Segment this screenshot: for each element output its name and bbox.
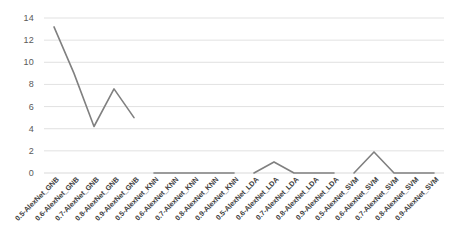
line-chart: 02468101214 0.5-AlexNet_GNB0.6-AlexNet_G… [0, 0, 451, 243]
y-tick-label: 8 [29, 79, 34, 89]
y-tick-label: 2 [29, 146, 34, 156]
plot-area [44, 18, 444, 173]
series-segment-svm [354, 152, 434, 173]
y-tick-label: 0 [29, 168, 34, 178]
x-axis: 0.5-AlexNet_GNB0.6-AlexNet_GNB0.7-AlexNe… [44, 173, 444, 243]
y-tick-label: 14 [24, 13, 34, 23]
y-tick-label: 10 [24, 57, 34, 67]
y-tick-label: 12 [24, 35, 34, 45]
series-segment-lda [254, 162, 334, 173]
data-series-line [44, 18, 444, 173]
y-tick-label: 6 [29, 102, 34, 112]
y-tick-label: 4 [29, 124, 34, 134]
series-segment-gnb [54, 27, 134, 127]
y-axis: 02468101214 [0, 18, 40, 173]
